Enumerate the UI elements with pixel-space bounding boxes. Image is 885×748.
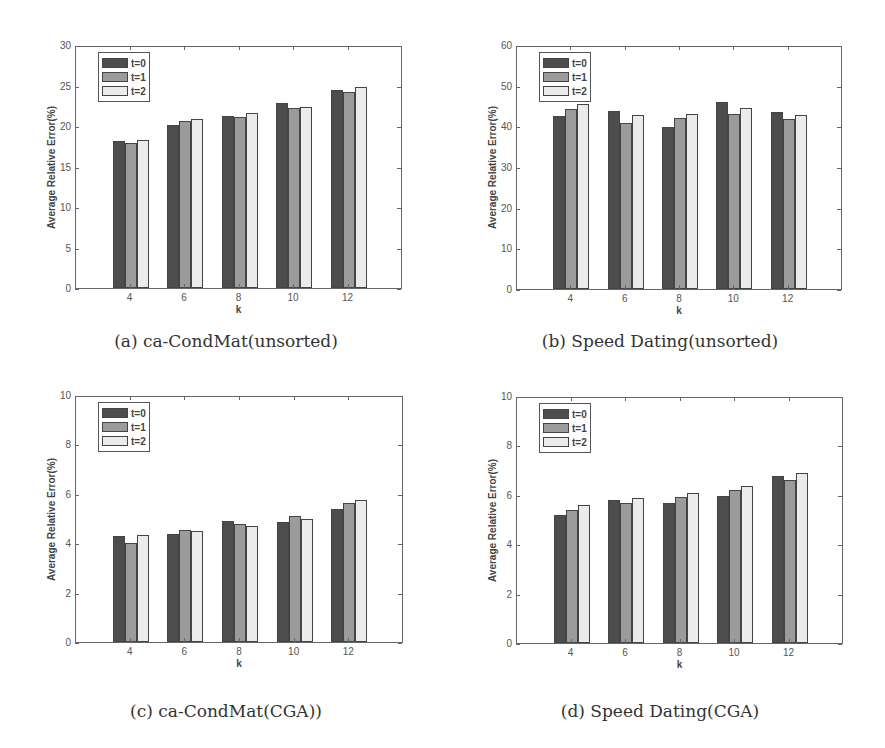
y-tick-mark [837,87,841,88]
legend-swatch [102,58,128,68]
x-tick-mark [294,396,295,400]
bar-k4-t0 [554,515,566,643]
y-tick-mark [516,209,520,210]
bar-k6-t2 [191,119,203,288]
y-axis-label: Average Relative Error(%) [487,68,498,268]
bar-k12-t0 [772,476,784,643]
x-tick-label: 8 [224,647,254,657]
y-tick-mark [837,209,841,210]
bar-k4-t2 [577,104,589,289]
y-tick-mark [837,127,841,128]
bar-k6-t0 [167,125,179,288]
bar-k4-t1 [566,510,578,643]
y-tick-mark [75,289,79,290]
legend-item-t1: t=1 [543,421,587,435]
legend-item-t1: t=1 [102,70,146,84]
x-tick-mark [570,285,571,289]
y-tick-mark [398,643,402,644]
x-tick-label: 12 [333,647,363,657]
legend-label: t=2 [131,436,146,447]
caption-b: (b) Speed Dating(unsorted) [510,331,810,351]
y-tick-mark [75,208,79,209]
x-tick-mark [239,396,240,400]
bar-k8-t2 [246,526,258,642]
bar-k10-t0 [717,496,729,643]
y-axis-label: Average Relative Error(%) [46,419,57,619]
bar-k8-t2 [687,493,699,643]
caption-c: (c) ca-CondMat(CGA)) [76,701,376,721]
y-tick-mark [397,168,401,169]
legend-item-t1: t=1 [543,70,587,84]
bar-k10-t1 [289,516,301,642]
legend-label: t=2 [572,437,587,448]
x-tick-mark [239,46,240,50]
bar-k10-t2 [741,486,753,643]
y-tick-mark [75,127,79,128]
x-tick-mark [571,639,572,643]
bar-k8-t1 [674,118,686,289]
x-tick-mark [733,46,734,50]
y-tick-mark [397,87,401,88]
x-tick-mark [625,46,626,50]
y-tick-mark [516,249,520,250]
legend-label: t=0 [131,58,146,69]
x-tick-mark [130,284,131,288]
x-tick-mark [130,46,131,50]
y-tick-mark [75,87,79,88]
y-tick-mark [516,496,520,497]
bar-k6-t1 [179,121,191,288]
x-tick-mark [733,285,734,289]
bar-k6-t0 [608,111,620,289]
bar-k10-t2 [740,108,752,289]
bar-k10-t1 [728,114,740,289]
x-tick-mark [679,285,680,289]
bar-k10-t2 [301,519,313,642]
x-tick-mark [734,639,735,643]
legend-label: t=2 [131,86,146,97]
y-tick-mark [75,544,79,545]
bar-k12-t2 [796,473,808,643]
y-axis-label: Average Relative Error(%) [46,67,57,267]
y-tick-mark [398,445,402,446]
bar-k6-t2 [632,498,644,643]
x-tick-mark [625,285,626,289]
y-tick-mark [397,127,401,128]
y-tick-mark [838,496,842,497]
x-tick-label: 10 [279,647,309,657]
y-tick-mark [837,290,841,291]
y-tick-mark [75,445,79,446]
legend-swatch [543,409,569,419]
x-tick-mark [184,284,185,288]
x-tick-mark [625,639,626,643]
legend-label: t=0 [131,408,146,419]
bar-k8-t1 [234,117,246,288]
y-tick-mark [838,397,842,398]
legend-swatch [102,86,128,96]
y-tick-mark [397,249,401,250]
bar-k4-t1 [125,543,137,642]
bar-k8-t1 [675,497,687,643]
bar-k10-t2 [300,107,312,288]
y-tick-mark [838,446,842,447]
bar-k12-t2 [355,87,367,288]
bar-k12-t1 [343,92,355,288]
bar-k6-t1 [179,530,191,642]
bar-k12-t1 [343,503,355,642]
legend-swatch [102,408,128,418]
bar-k4-t0 [113,536,125,642]
x-tick-mark [788,285,789,289]
bar-k4-t1 [125,143,137,288]
legend-label: t=1 [572,423,587,434]
y-tick-mark [516,595,520,596]
x-tick-label: 10 [718,294,748,304]
y-tick-mark [837,168,841,169]
y-tick-label: 0 [488,285,512,295]
x-tick-mark [680,639,681,643]
x-axis-label: k [229,304,249,315]
legend-swatch [543,72,569,82]
bar-k8-t0 [663,503,675,643]
bar-k6-t1 [620,503,632,643]
legend-label: t=1 [131,72,146,83]
bar-k10-t0 [716,102,728,289]
y-tick-mark [516,87,520,88]
